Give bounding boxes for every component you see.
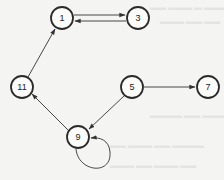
- node-9: 9: [67, 126, 89, 148]
- node-label: 7: [205, 82, 210, 92]
- edge-9-to-11: [32, 94, 68, 130]
- node-label: 3: [135, 13, 140, 23]
- node-1: 1: [51, 7, 73, 29]
- node-label: 9: [75, 132, 80, 142]
- edge-5-to-9: [89, 96, 124, 129]
- node-label: 5: [129, 82, 134, 92]
- node-5: 5: [121, 76, 143, 98]
- node-label: 1: [59, 13, 64, 23]
- node-label: 11: [17, 82, 26, 92]
- node-3: 3: [127, 7, 149, 29]
- edge-11-to-1: [28, 29, 55, 77]
- node-11: 11: [11, 76, 33, 98]
- directed-graph: 1 3 11 5 7 9: [0, 0, 224, 180]
- node-7: 7: [197, 76, 219, 98]
